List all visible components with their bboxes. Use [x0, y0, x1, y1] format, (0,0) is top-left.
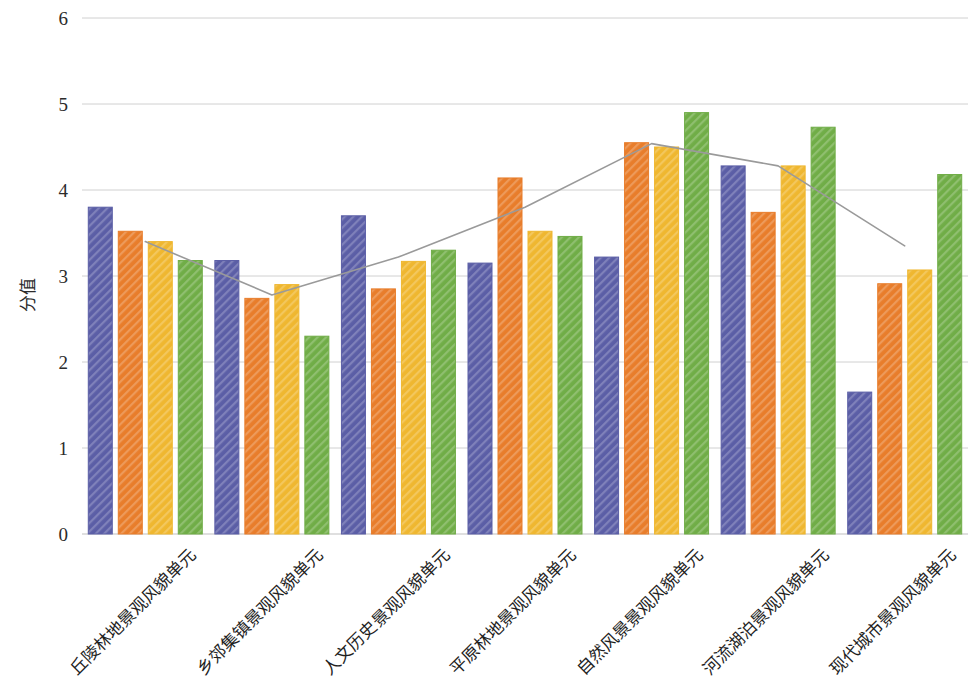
bar	[215, 261, 239, 534]
y-tick-label: 4	[59, 180, 69, 201]
y-tick-label: 5	[59, 94, 69, 115]
chart-container: 0123456 分值 丘陵林地景观风貌单元乡郊集镇景观风貌单元人文历史景观风貌单…	[0, 0, 977, 690]
bar	[595, 257, 619, 534]
bar	[118, 231, 142, 534]
bar	[88, 207, 112, 534]
x-category-label: 河流湖泊景观风貌单元	[699, 544, 833, 678]
bar	[275, 285, 299, 534]
bar	[625, 143, 649, 534]
x-category-label: 人文历史景观风貌单元	[319, 544, 453, 678]
bars-group	[88, 113, 961, 534]
bar	[938, 175, 962, 534]
bar	[431, 250, 455, 534]
bar	[341, 216, 365, 534]
bar	[751, 212, 775, 534]
x-category-label: 自然风景景观风貌单元	[572, 544, 706, 678]
bar	[558, 236, 582, 534]
bar-line-chart: 0123456 分值 丘陵林地景观风貌单元乡郊集镇景观风貌单元人文历史景观风貌单…	[0, 0, 977, 690]
bar	[528, 231, 552, 534]
x-category-label: 平原林地景观风貌单元	[446, 544, 580, 678]
y-tick-label: 3	[59, 266, 69, 287]
bar	[878, 284, 902, 534]
y-tick-labels-group: 0123456	[59, 8, 69, 545]
bar	[178, 261, 202, 534]
x-category-label: 现代城市景观风貌单元	[825, 544, 959, 678]
bar	[245, 298, 269, 534]
bar	[371, 289, 395, 534]
x-category-label: 丘陵林地景观风貌单元	[66, 544, 200, 678]
bar	[721, 166, 745, 534]
y-axis-title: 分值	[18, 278, 38, 312]
bar	[401, 261, 425, 534]
y-tick-label: 2	[59, 352, 69, 373]
y-tick-label: 1	[59, 438, 69, 459]
bar	[908, 270, 932, 534]
bar	[468, 263, 492, 534]
y-tick-label: 6	[59, 8, 69, 29]
bar	[685, 113, 709, 534]
bar	[148, 242, 172, 534]
y-axis-title-group: 分值	[18, 278, 38, 312]
bar	[848, 392, 872, 534]
bar	[498, 178, 522, 534]
x-category-label: 乡郊集镇景观风貌单元	[193, 544, 327, 678]
x-category-labels-group: 丘陵林地景观风貌单元乡郊集镇景观风貌单元人文历史景观风貌单元平原林地景观风貌单元…	[66, 544, 960, 678]
bar	[305, 336, 329, 534]
bar	[655, 147, 679, 534]
bar	[781, 166, 805, 534]
y-tick-label: 0	[59, 524, 69, 545]
